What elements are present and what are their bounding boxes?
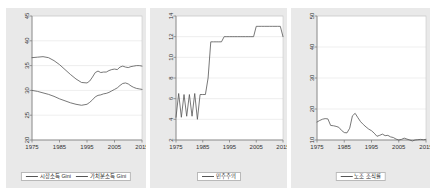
svg-text:1985: 1985 [338,144,352,150]
svg-text:25: 25 [24,111,30,118]
svg-text:2005: 2005 [250,144,264,150]
legend-label-union-density: 노조 조직률 [354,174,381,179]
svg-text:12: 12 [168,33,174,40]
legend-entry-disposable-gini: 가처분소득 Gini [76,174,126,179]
svg-text:40: 40 [309,43,315,50]
svg-text:14: 14 [168,12,174,19]
legend-entry-market-gini: 시장소득 Gini [26,174,71,179]
svg-text:1975: 1975 [169,144,183,150]
legend-label-market-gini: 시장소득 Gini [40,174,71,179]
plot-area-panel-3: 102030405019751985199520052015 [291,8,430,188]
plot-area-panel-1: 20253035404519751985199520052015 [6,8,146,188]
plot-area-panel-2: 246810121419751985199520052015 [150,8,287,188]
svg-text:30: 30 [309,74,315,81]
legend-label-disposable-gini: 가처분소득 Gini [90,174,126,179]
figure-container: 20253035404519751985199520052015 시장소득 Gi… [0,0,436,195]
svg-text:1975: 1975 [25,144,39,150]
legend-panel-3: 노조 조직률 [335,172,386,181]
svg-text:10: 10 [168,53,174,60]
legend-line-icon [76,176,88,177]
legend-panel-1: 시장소득 Gini 가처분소득 Gini [21,172,131,181]
svg-text:2005: 2005 [108,144,122,150]
svg-text:35: 35 [24,62,30,69]
legend-line-icon [340,176,352,177]
svg-text:1995: 1995 [80,144,94,150]
legend-panel-2: 민주주의 [197,172,241,181]
svg-text:2: 2 [168,138,174,142]
chart-panel-democracy: 246810121419751985199520052015 민주주의 [150,8,287,188]
svg-text:2015: 2015 [276,144,287,150]
svg-text:1975: 1975 [310,144,324,150]
legend-label-democracy: 민주주의 [216,174,236,179]
svg-text:2015: 2015 [419,144,430,150]
svg-text:30: 30 [24,86,30,93]
svg-text:50: 50 [309,12,315,19]
legend-entry-union-density: 노조 조직률 [340,174,381,179]
svg-text:20: 20 [24,136,30,143]
svg-text:6: 6 [168,96,174,100]
chart-panel-market-disposable-gini: 20253035404519751985199520052015 시장소득 Gi… [6,8,146,188]
svg-text:2015: 2015 [135,144,146,150]
svg-text:1985: 1985 [53,144,67,150]
legend-entry-democracy: 민주주의 [202,174,236,179]
svg-text:1985: 1985 [196,144,210,150]
svg-text:4: 4 [168,117,174,121]
svg-text:2005: 2005 [392,144,406,150]
legend-line-icon [202,176,214,177]
svg-text:1995: 1995 [223,144,237,150]
svg-text:20: 20 [309,105,315,112]
chart-panel-union-density: 102030405019751985199520052015 노조 조직률 [291,8,430,188]
svg-text:1995: 1995 [365,144,379,150]
svg-text:45: 45 [24,12,30,19]
svg-text:10: 10 [309,136,315,143]
svg-text:40: 40 [24,37,30,44]
legend-line-icon [26,176,38,177]
svg-text:8: 8 [168,76,174,80]
